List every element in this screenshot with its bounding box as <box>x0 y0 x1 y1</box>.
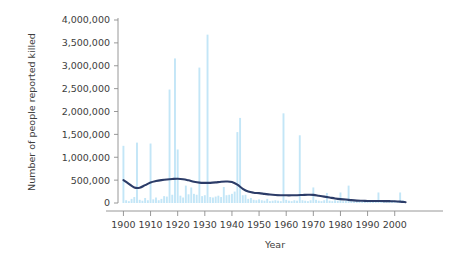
bar <box>331 201 333 203</box>
bar <box>160 199 162 203</box>
bar <box>293 200 295 203</box>
y-tick-label: 3,500,000 <box>62 37 110 48</box>
chart-container: 0500,0001,000,0001,500,0002,000,0002,500… <box>0 0 455 263</box>
bar <box>136 143 138 203</box>
bar <box>296 201 298 203</box>
bar <box>310 200 312 203</box>
bar <box>337 201 339 203</box>
bar <box>253 200 255 203</box>
bar <box>125 200 127 203</box>
bar <box>139 200 141 203</box>
x-tick-label: 2000 <box>383 219 407 230</box>
x-tick-label: 1970 <box>301 219 325 230</box>
bar <box>236 132 238 203</box>
bar <box>280 201 282 203</box>
y-axis-tick-labels: 0500,0001,000,0001,500,0002,000,0002,500… <box>62 14 110 208</box>
bar <box>133 197 135 203</box>
bar <box>158 200 160 203</box>
y-tick-label: 4,000,000 <box>62 14 110 25</box>
bar <box>277 201 279 203</box>
bar <box>209 197 211 203</box>
x-tick-label: 1900 <box>111 219 135 230</box>
bar <box>179 196 181 203</box>
x-tick-label: 1910 <box>138 219 162 230</box>
x-axis-tick-labels: 1900191019201930194019501960197019801990… <box>111 219 406 230</box>
y-axis-title: Number of people reported killed <box>26 33 37 191</box>
bar <box>190 187 192 203</box>
bar <box>128 201 130 203</box>
y-tick-label: 2,000,000 <box>62 106 110 117</box>
y-tick-label: 2,500,000 <box>62 83 110 94</box>
bar <box>291 201 293 203</box>
bar <box>266 199 268 203</box>
trend-line <box>123 179 405 202</box>
bar <box>207 35 209 203</box>
bar <box>226 195 228 203</box>
bar <box>340 192 342 203</box>
bar <box>247 199 249 203</box>
bar <box>177 149 179 203</box>
y-tick-label: 0 <box>104 197 110 208</box>
bar <box>307 201 309 203</box>
bar <box>304 201 306 203</box>
bar <box>204 195 206 203</box>
bar <box>334 200 336 203</box>
bar <box>329 201 331 203</box>
bar <box>302 200 304 203</box>
y-tick-label: 3,000,000 <box>62 60 110 71</box>
bar <box>141 201 143 203</box>
bar <box>258 199 260 203</box>
bar <box>323 200 325 203</box>
x-tick-label: 1980 <box>328 219 352 230</box>
bar <box>318 201 320 203</box>
bar <box>217 196 219 203</box>
disasters-deaths-chart: 0500,0001,000,0001,500,0002,000,0002,500… <box>0 0 455 263</box>
bar <box>131 199 133 203</box>
bar <box>201 196 203 203</box>
bar <box>342 201 344 203</box>
bar <box>174 58 176 203</box>
bar <box>321 201 323 203</box>
bar <box>163 196 165 203</box>
bar <box>269 201 271 203</box>
bar <box>147 200 149 203</box>
x-tick-label: 1960 <box>274 219 298 230</box>
bar <box>215 197 217 203</box>
bar-series <box>122 35 403 203</box>
bar <box>171 195 173 203</box>
x-axis-title: Year <box>264 239 285 250</box>
x-axis-group: 1900191019201930194019501960197019801990… <box>106 211 443 230</box>
bar <box>212 198 214 203</box>
y-axis-group: 0500,0001,000,0001,500,0002,000,0002,500… <box>62 14 118 208</box>
bar <box>261 200 263 203</box>
bar <box>283 113 285 203</box>
bar <box>255 200 257 203</box>
bar <box>264 201 266 203</box>
bar <box>242 195 244 203</box>
y-axis-ticks <box>114 20 118 203</box>
bar <box>196 195 198 203</box>
bar <box>274 200 276 203</box>
x-tick-label: 1990 <box>355 219 379 230</box>
bar <box>166 197 168 203</box>
x-axis-ticks <box>123 211 394 216</box>
y-tick-label: 1,000,000 <box>62 152 110 163</box>
bar <box>239 118 241 203</box>
bar <box>299 135 301 203</box>
x-tick-label: 1950 <box>247 219 271 230</box>
bar <box>245 195 247 203</box>
bar <box>182 198 184 203</box>
bar <box>315 200 317 203</box>
bar <box>169 90 171 203</box>
bar <box>228 195 230 203</box>
bar <box>150 144 152 203</box>
bar <box>152 199 154 203</box>
bar <box>188 194 190 203</box>
x-tick-label: 1930 <box>193 219 217 230</box>
bar <box>122 146 124 203</box>
bar <box>288 201 290 203</box>
bar <box>285 200 287 203</box>
x-tick-label: 1940 <box>220 219 244 230</box>
bar <box>231 194 233 203</box>
bar <box>185 186 187 203</box>
